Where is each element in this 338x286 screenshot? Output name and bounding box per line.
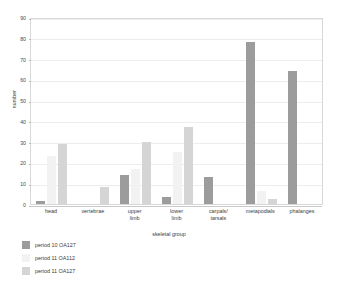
legend-swatch (22, 254, 30, 262)
bar-group (246, 19, 277, 204)
y-axis-tick-label: 60 (2, 77, 26, 83)
bar-group (162, 19, 193, 204)
bar (257, 191, 266, 205)
legend-item: period 11 OA112 (22, 251, 76, 264)
y-axis-tick-label: 10 (2, 181, 26, 187)
y-axis-tick-label: 50 (2, 98, 26, 104)
y-axis-tick-label: 30 (2, 140, 26, 146)
legend-label: period 10 OA127 (35, 242, 76, 248)
bar (288, 71, 297, 204)
y-axis-tick-label: 70 (2, 57, 26, 63)
legend-item: period 11 OA127 (22, 264, 76, 277)
bar (36, 201, 45, 204)
bar (47, 156, 56, 204)
bar (100, 187, 109, 204)
y-axis-tick-label: 40 (2, 119, 26, 125)
legend-label: period 11 OA112 (35, 255, 75, 261)
bar (204, 177, 213, 204)
legend-swatch (22, 267, 30, 275)
bar (173, 152, 182, 204)
bar (120, 175, 129, 204)
legend-item: period 10 OA127 (22, 238, 76, 251)
bar-group (78, 19, 109, 204)
bar (184, 127, 193, 204)
bar-group (36, 19, 67, 204)
bar-group (204, 19, 235, 204)
y-axis-tick-label: 20 (2, 160, 26, 166)
plot-area (30, 18, 323, 205)
x-axis-tick-label: phalanges (272, 208, 332, 215)
bar-group (288, 19, 319, 204)
legend-swatch (22, 241, 30, 249)
bar (131, 169, 140, 204)
bar (268, 199, 277, 204)
chart-legend: period 10 OA127period 11 OA112period 11 … (22, 238, 76, 277)
bar (246, 42, 255, 204)
y-axis-tick-label: 90 (2, 15, 26, 21)
y-axis-tick-mark (29, 206, 31, 207)
legend-label: period 11 OA127 (35, 268, 75, 274)
bar (58, 144, 67, 204)
bar (162, 197, 171, 204)
x-axis-title: skeletal group (0, 231, 338, 237)
bar-chart: number 0102030405060708090 headvertebrae… (0, 0, 338, 286)
bar-series-layer (31, 19, 322, 204)
y-axis-tick-label: 80 (2, 36, 26, 42)
bar-group (120, 19, 151, 204)
gridline (31, 206, 322, 207)
bar (142, 142, 151, 204)
